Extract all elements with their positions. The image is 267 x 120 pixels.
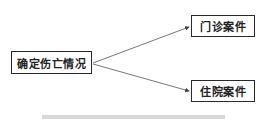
outpatient-node-label: 门诊案件 xyxy=(200,18,246,34)
root-node-label: 确定伤亡情况 xyxy=(17,55,86,71)
inpatient-node: 住院案件 xyxy=(191,80,255,102)
edge-to-inpatient xyxy=(93,64,189,91)
root-node: 确定伤亡情况 xyxy=(11,51,92,74)
bottom-divider xyxy=(42,115,225,119)
inpatient-node-label: 住院案件 xyxy=(200,83,246,99)
edge-to-outpatient xyxy=(93,27,189,63)
outpatient-node: 门诊案件 xyxy=(191,15,255,37)
